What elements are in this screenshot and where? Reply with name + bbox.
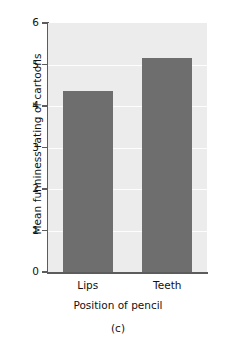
y-tick-mark [42,64,47,65]
plot-area [48,23,207,272]
figure-caption: (c) [0,322,236,334]
y-tick-mark [42,147,47,148]
y-tick-label: 1 [26,224,39,236]
y-tick-label: 0 [26,265,39,277]
figure-panel-c: Mean funniness rating of cartoons 012345… [0,0,236,343]
y-tick-label: 4 [26,99,39,111]
x-axis-title: Position of pencil [0,299,236,311]
x-axis-line [47,272,208,274]
y-tick-label: 2 [26,182,39,194]
y-tick-mark [42,188,47,189]
bar-teeth [142,58,192,272]
y-tick-label: 5 [26,58,39,70]
y-tick-label: 6 [26,16,39,28]
x-tick-label-teeth: Teeth [132,279,202,291]
y-tick-label: 3 [26,141,39,153]
y-tick-mark [42,22,47,23]
y-tick-mark [42,271,47,272]
y-tick-mark [42,105,47,106]
x-tick-label-lips: Lips [53,279,123,291]
bar-lips [63,91,113,272]
y-tick-mark [42,230,47,231]
